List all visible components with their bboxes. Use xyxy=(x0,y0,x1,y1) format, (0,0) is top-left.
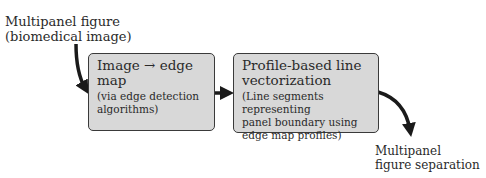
output-label: Multipanel figure separation xyxy=(375,144,480,172)
output-label-line1: Multipanel xyxy=(375,144,480,158)
step2-sub-line2: panel boundary using xyxy=(242,116,370,129)
step2-title-line1: Profile-based line xyxy=(242,58,370,73)
step2-subtitle: (Line segments representing panel bounda… xyxy=(242,90,370,142)
step1-title: Image → edge map xyxy=(97,58,206,88)
step-line-vectorization-box: Profile-based line vectorization (Line s… xyxy=(233,53,379,133)
step1-sub-line1: (via edge detection xyxy=(97,90,206,103)
arrow-input-to-step1 xyxy=(76,44,85,88)
step-edge-map-box: Image → edge map (via edge detection alg… xyxy=(88,53,215,131)
step2-sub-line3: edge map profiles) xyxy=(242,129,370,142)
step2-sub-line1: (Line segments representing xyxy=(242,90,370,116)
step1-sub-line2: algorithms) xyxy=(97,103,206,116)
arrow-step2-to-output xyxy=(378,92,410,130)
output-label-line2: figure separation xyxy=(375,158,480,172)
step2-title: Profile-based line vectorization xyxy=(242,58,370,88)
step2-title-line2: vectorization xyxy=(242,73,370,88)
step1-subtitle: (via edge detection algorithms) xyxy=(97,90,206,116)
